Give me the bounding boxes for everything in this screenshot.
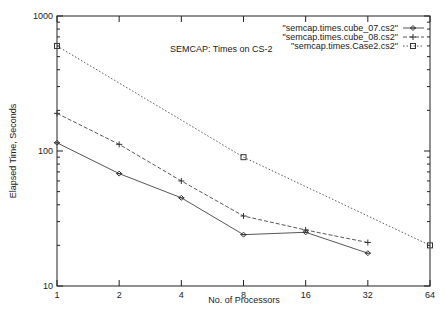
legend-label: "semcap.times.Case2.cs2" <box>291 41 398 51</box>
y-tick-label: 10 <box>43 281 53 291</box>
series-1 <box>54 110 371 245</box>
x-tick-label: 1 <box>54 290 59 300</box>
y-tick-label: 1000 <box>33 11 53 21</box>
legend: "semcap.times.cube_07.cs2""semcap.times.… <box>283 23 424 51</box>
y-axis-label: Elapsed Time, Seconds <box>8 103 18 198</box>
chart-title: SEMCAP: Times on CS-2 <box>170 44 273 54</box>
data-series <box>54 43 433 255</box>
x-axis-label: No. of Processors <box>208 295 280 305</box>
x-tick-label: 2 <box>117 290 122 300</box>
y-tick-label: 100 <box>38 146 53 156</box>
x-tick-label: 16 <box>301 290 311 300</box>
x-tick-label: 32 <box>363 290 373 300</box>
x-tick-label: 64 <box>425 290 435 300</box>
plot-frame <box>57 16 430 286</box>
x-axis-ticks: 1248163264 <box>54 16 435 300</box>
chart: 101001000 1248163264 SEMCAP: Times on CS… <box>0 0 445 319</box>
x-tick-label: 4 <box>179 290 184 300</box>
